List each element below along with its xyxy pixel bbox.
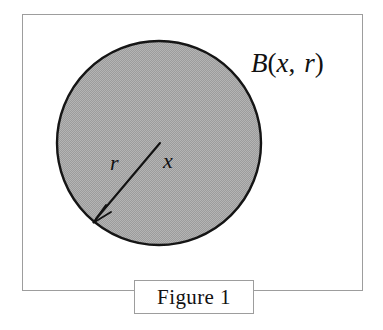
set-label-open-paren: (	[268, 48, 277, 78]
figure-caption-box: Figure 1	[134, 280, 254, 314]
set-label-comma: ,	[288, 48, 295, 78]
set-label-arg-r: r	[304, 48, 315, 78]
figure-canvas: B(x, r) r x Figure 1	[0, 0, 383, 330]
radius-line	[96, 143, 160, 219]
set-label-close-paren: )	[315, 48, 324, 78]
set-label-arg-x: x	[277, 48, 289, 78]
radius-arrow	[80, 130, 180, 235]
set-label-name: B	[251, 48, 268, 78]
center-point-label: x	[163, 150, 173, 172]
ball-set-label: B(x, r)	[251, 50, 324, 77]
figure-caption-text: Figure 1	[157, 285, 231, 310]
radius-label: r	[110, 152, 119, 174]
arrowhead-icon	[93, 205, 111, 223]
